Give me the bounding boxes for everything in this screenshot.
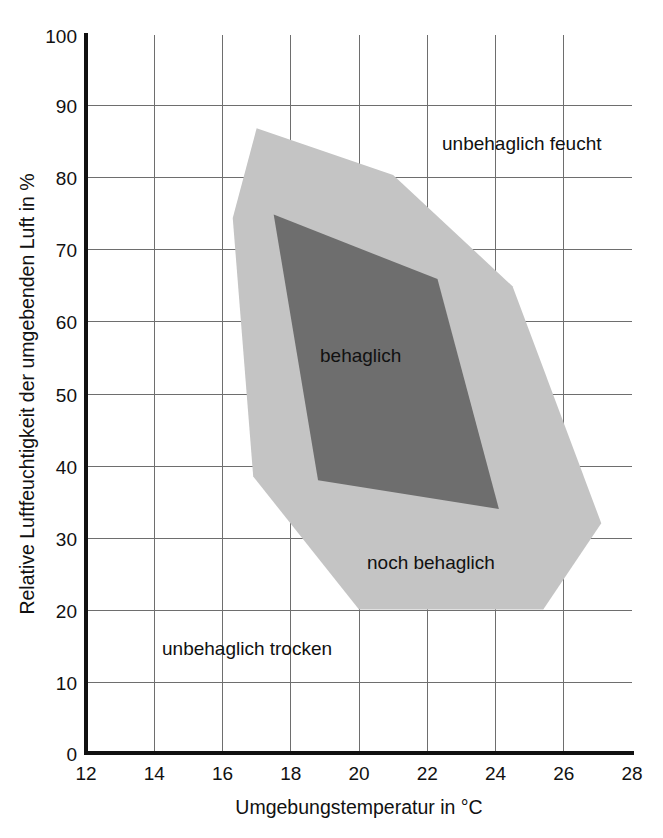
x-tick-24: 24 bbox=[485, 763, 507, 784]
comfort-zone-chart: 0 10 20 30 40 50 60 70 80 90 100 12 14 1… bbox=[0, 0, 663, 838]
y-tick-20: 20 bbox=[56, 601, 77, 622]
x-tick-labels: 12 14 16 18 20 22 24 26 28 bbox=[75, 763, 642, 784]
y-tick-30: 30 bbox=[56, 529, 77, 550]
annotation-unbehaglich-feucht: unbehaglich feucht bbox=[442, 133, 602, 154]
y-tick-60: 60 bbox=[56, 312, 77, 333]
y-tick-0: 0 bbox=[66, 744, 77, 765]
y-tick-labels: 0 10 20 30 40 50 60 70 80 90 100 bbox=[45, 26, 77, 765]
y-tick-90: 90 bbox=[56, 96, 77, 117]
annotation-unbehaglich-trocken: unbehaglich trocken bbox=[162, 638, 332, 659]
y-tick-40: 40 bbox=[56, 457, 77, 478]
y-tick-10: 10 bbox=[56, 673, 77, 694]
y-tick-50: 50 bbox=[56, 385, 77, 406]
annotation-noch-behaglich: noch behaglich bbox=[367, 552, 495, 573]
x-tick-26: 26 bbox=[553, 763, 574, 784]
annotation-behaglich: behaglich bbox=[320, 345, 401, 366]
x-tick-22: 22 bbox=[417, 763, 438, 784]
x-tick-14: 14 bbox=[144, 763, 166, 784]
x-axis-title: Umgebungstemperatur in °C bbox=[235, 796, 482, 818]
x-tick-28: 28 bbox=[621, 763, 642, 784]
y-tick-100: 100 bbox=[45, 26, 77, 47]
y-axis-title: Relative Luftfeuchtigkeit der umgebenden… bbox=[16, 173, 38, 614]
chart-container: 0 10 20 30 40 50 60 70 80 90 100 12 14 1… bbox=[0, 0, 663, 838]
y-tick-70: 70 bbox=[56, 240, 77, 261]
x-tick-18: 18 bbox=[280, 763, 301, 784]
x-tick-12: 12 bbox=[75, 763, 96, 784]
x-tick-16: 16 bbox=[212, 763, 233, 784]
x-tick-20: 20 bbox=[348, 763, 369, 784]
y-tick-80: 80 bbox=[56, 168, 77, 189]
